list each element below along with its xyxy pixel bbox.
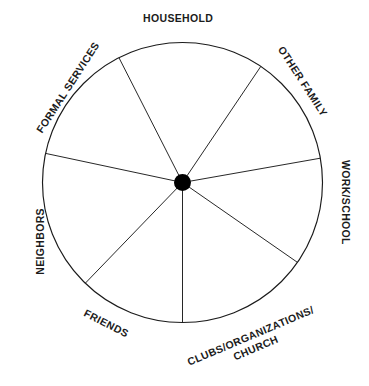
sector-label-work-school: WORK/SCHOOL [339,160,352,245]
spoke-neighbors-friends [85,183,182,284]
sector-label-household: HOUSEHOLD [143,12,213,25]
spoke-clubs-work-school [183,183,298,263]
spoke-formal-services-neighbors [46,153,183,182]
sector-label-neighbors: NEIGHBORS [34,208,47,275]
social-network-circle-diagram: HOUSEHOLD OTHER FAMILY WORK/SCHOOL CLUBS… [0,0,369,386]
spoke-other-family-household [183,66,261,182]
spoke-work-school-other-family [183,158,321,182]
spoke-household-formal-services [119,58,183,183]
center-hub-dot [174,174,191,191]
